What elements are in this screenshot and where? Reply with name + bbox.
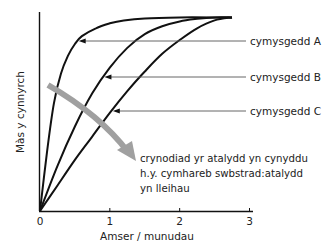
trend-text-line-1: crynodiad yr atalydd yn cynyddu [140, 153, 308, 164]
x-tick-label-3: 3 [246, 215, 253, 227]
x-axis-label: Amser / munudau [100, 230, 194, 242]
x-tick-label-0: 0 [37, 215, 44, 227]
x-tick-label-2: 2 [176, 215, 183, 227]
curve-cymysgedd-b [40, 17, 232, 211]
y-axis-label: Màs y cynnyrch [14, 71, 26, 153]
label-cymysgedd-b: cymysgedd B [250, 71, 321, 83]
label-cymysgedd-c: cymysgedd C [250, 105, 321, 117]
pointer-arrowhead-cymysgedd-c [113, 109, 120, 114]
label-cymysgedd-a: cymysgedd A [250, 35, 322, 47]
trend-text-line-2: h.y. cymhareb swbstrad:atalydd [140, 168, 303, 179]
x-tick-label-1: 1 [106, 215, 113, 227]
chart: 0123 Amser / munudau Màs y cynnyrch cymy… [0, 0, 329, 252]
curve-cymysgedd-c [40, 17, 232, 211]
trend-text-line-3: yn lleihau [140, 183, 190, 194]
curve-cymysgedd-a [40, 17, 232, 211]
curves-group [40, 17, 232, 211]
pointer-arrowhead-cymysgedd-b [104, 75, 111, 80]
